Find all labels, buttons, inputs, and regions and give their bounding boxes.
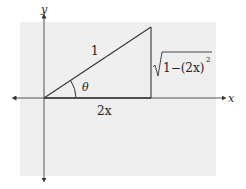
x-axis-label: x [228,92,235,105]
hypotenuse-label: 1 [91,44,99,58]
background-panel [20,22,216,176]
y-axis-label: y [40,3,48,16]
triangle-diagram: y x 1 θ 2x 1−(2x) 2 [0,0,246,189]
exponent: 2 [206,56,210,64]
radicand: 1−(2x) [163,61,204,75]
base-label: 2x [97,104,112,118]
angle-label: θ [82,81,89,94]
